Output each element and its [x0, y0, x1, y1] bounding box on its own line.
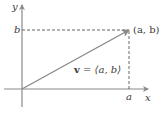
y-axis-label: y [12, 2, 18, 12]
vector-diagram [0, 0, 161, 117]
x-axis-label: x [145, 93, 151, 103]
point-label: (a, b) [133, 25, 160, 35]
y-tick-label-b: b [14, 25, 20, 35]
x-tick-label-a: a [126, 92, 132, 102]
vector-components: ⟨a, b⟩ [95, 64, 122, 75]
vector-equals: = [80, 64, 95, 75]
vector-arrow [22, 30, 129, 89]
vector-label: v = ⟨a, b⟩ [74, 65, 121, 75]
